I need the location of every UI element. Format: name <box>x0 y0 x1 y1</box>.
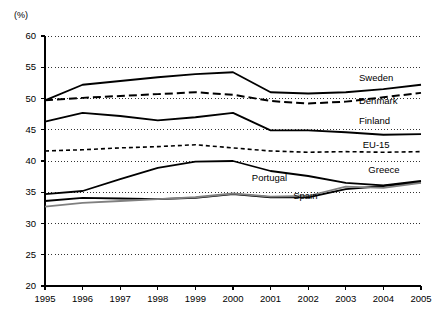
series-label-portugal: Portugal <box>252 172 287 183</box>
y-axis-tick-label: 20 <box>16 280 36 291</box>
y-axis-tick-label: 25 <box>16 249 36 260</box>
series-label-spain: Spain <box>293 190 317 201</box>
y-axis-ticks <box>41 36 45 286</box>
y-axis-tick-label: 40 <box>16 155 36 166</box>
x-axis-ticks <box>45 286 421 290</box>
x-axis-tick-label: 2003 <box>329 293 363 304</box>
x-axis-tick-label: 2005 <box>404 293 436 304</box>
x-axis-tick-label: 1998 <box>141 293 175 304</box>
x-axis-tick-label: 2000 <box>216 293 250 304</box>
x-axis-tick-label: 1999 <box>178 293 212 304</box>
y-axis-tick-label: 30 <box>16 218 36 229</box>
series-label-greece: Greece <box>368 164 399 175</box>
x-axis-tick-label: 1996 <box>66 293 100 304</box>
x-axis-tick-label: 1997 <box>103 293 137 304</box>
x-axis-tick-label: 2004 <box>366 293 400 304</box>
series-label-finland: Finland <box>359 115 390 126</box>
series-line-greece <box>45 161 421 194</box>
y-axis-tick-label: 45 <box>16 124 36 135</box>
y-axis-tick-label: 55 <box>16 61 36 72</box>
series-label-eu-15: EU-15 <box>363 139 390 150</box>
x-axis-tick-label: 2002 <box>291 293 325 304</box>
y-axis-tick-label: 35 <box>16 186 36 197</box>
series-label-denmark: Denmark <box>359 95 398 106</box>
y-axis-tick-label: 50 <box>16 93 36 104</box>
x-axis-tick-label: 1995 <box>28 293 62 304</box>
series-label-sweden: Sweden <box>359 72 393 83</box>
x-axis-tick-label: 2001 <box>254 293 288 304</box>
y-axis-tick-label: 60 <box>16 30 36 41</box>
